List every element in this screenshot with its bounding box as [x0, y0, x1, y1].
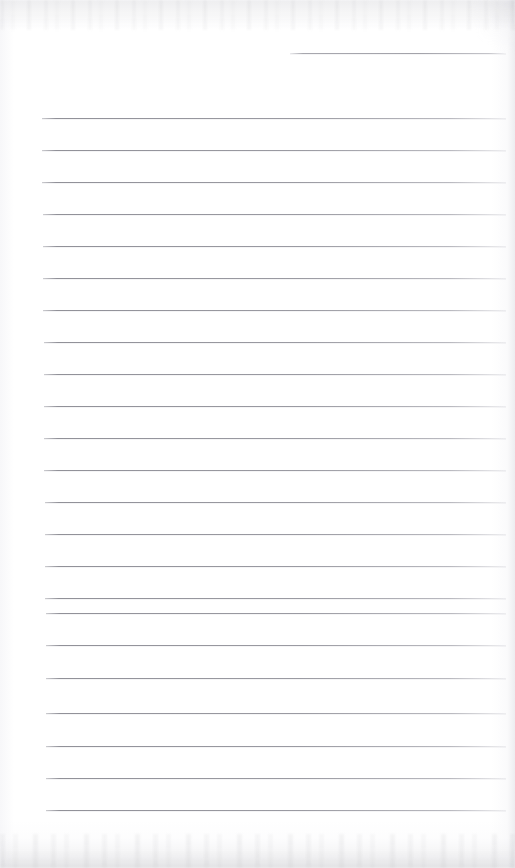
ruled-line: [44, 374, 506, 375]
ruled-line: [43, 246, 506, 247]
ruled-line: [44, 438, 506, 439]
ruled-line-partial: [290, 53, 506, 54]
scan-grain-bottom: [0, 834, 515, 868]
ruled-line: [45, 566, 506, 567]
ruled-line: [42, 182, 506, 183]
paper-sheet: [0, 0, 515, 868]
ruled-line: [46, 746, 506, 747]
scanned-page: [0, 0, 515, 868]
ruled-line: [43, 310, 506, 311]
ruled-line: [46, 645, 506, 646]
scan-grain-top: [0, 0, 515, 30]
ruled-line: [43, 278, 506, 279]
ruled-line: [42, 118, 506, 119]
ruled-line: [46, 810, 506, 811]
ruled-line: [44, 406, 506, 407]
ruled-line: [46, 613, 506, 614]
ruled-line: [44, 342, 506, 343]
ruled-line: [42, 150, 506, 151]
paper-left-edge-shadow: [0, 0, 14, 868]
ruled-line: [43, 214, 506, 215]
ruled-line: [45, 534, 506, 535]
ruled-line: [45, 598, 506, 599]
ruled-line: [46, 678, 506, 679]
ruled-line: [46, 713, 506, 714]
paper-right-edge-shadow: [489, 0, 515, 868]
ruled-line: [45, 502, 506, 503]
ruled-line: [44, 470, 506, 471]
ruled-line: [46, 778, 506, 779]
